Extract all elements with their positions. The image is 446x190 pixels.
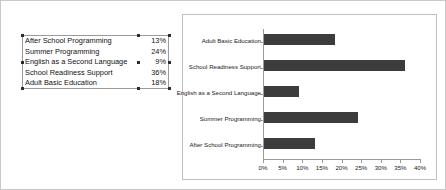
plot-area: Adult Basic Education School Readiness S… [183, 15, 436, 179]
x-axis-tick [263, 160, 264, 163]
x-axis-tick-label: 35% [390, 165, 410, 171]
chart-category-row: School Readiness Support [183, 55, 436, 83]
x-axis-tick [322, 160, 323, 163]
x-axis-tick [302, 160, 303, 163]
x-axis-tick-label: 10% [292, 165, 312, 171]
y-axis-tick [260, 42, 263, 43]
chart-category-row: Summer Programming [183, 107, 436, 135]
selection-handle-top-right[interactable] [168, 34, 171, 37]
chart-category-label: School Readiness Support [111, 64, 261, 70]
chart-bar[interactable] [264, 34, 335, 45]
chart-bar[interactable] [264, 60, 405, 71]
bar-chart-panel[interactable]: Adult Basic Education School Readiness S… [182, 14, 437, 180]
y-axis-line [263, 29, 264, 159]
x-axis-tick-label: 0% [253, 165, 273, 171]
chart-category-label: Adult Basic Education [111, 38, 261, 44]
x-axis-tick-label: 20% [332, 165, 352, 171]
y-axis-tick [260, 68, 263, 69]
x-axis-tick [400, 160, 401, 163]
selection-handle-middle-left[interactable] [21, 61, 24, 64]
table-cell-label: Adult Basic Education [23, 78, 135, 89]
x-axis-tick-label: 15% [312, 165, 332, 171]
y-axis-tick [260, 146, 263, 147]
table-cell-value: 24% [134, 46, 169, 56]
x-axis-tick-label: 5% [273, 165, 293, 171]
x-axis-tick [283, 160, 284, 163]
x-axis-tick-label: 25% [351, 165, 371, 171]
chart-category-label: After School Programming [111, 142, 261, 148]
table-row[interactable]: Adult Basic Education 18% [23, 78, 169, 89]
chart-category-label: English as a Second Language [111, 90, 261, 96]
chart-bar[interactable] [264, 112, 358, 123]
selection-handle-top-left[interactable] [21, 34, 24, 37]
y-axis-tick [260, 94, 263, 95]
chart-category-row: After School Programming [183, 133, 436, 161]
chart-category-row: English as a Second Language [183, 81, 436, 109]
chart-bar[interactable] [264, 138, 315, 149]
chart-category-label: Summer Programming [111, 116, 261, 122]
selection-handle-top-middle[interactable] [137, 34, 140, 37]
selection-handle-bottom-left[interactable] [21, 87, 24, 90]
page-frame: After School Programming 13% Summer Prog… [0, 0, 446, 190]
x-axis-tick [342, 160, 343, 163]
table-row[interactable]: Summer Programming 24% [23, 46, 169, 56]
chart-category-row: Adult Basic Education [183, 29, 436, 57]
x-axis-tick-label: 40% [410, 165, 430, 171]
x-axis-tick [420, 160, 421, 163]
table-cell-label: Summer Programming [23, 46, 135, 56]
chart-bar[interactable] [264, 86, 299, 97]
y-axis-tick [260, 120, 263, 121]
x-axis-tick [381, 160, 382, 163]
x-axis-tick [361, 160, 362, 163]
x-axis-tick-label: 30% [371, 165, 391, 171]
